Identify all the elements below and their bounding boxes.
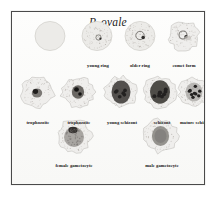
- cell-young-schizont: [100, 71, 142, 113]
- cell-trophozoite-2: [57, 71, 99, 113]
- caption-female-gametocyte: female gametocyte: [55, 163, 92, 168]
- caption-trophozoite: trophozoite: [27, 120, 50, 125]
- cell-trophozoite-1: [17, 71, 59, 113]
- cell-young-ring: [77, 16, 117, 56]
- figure-plate: P. ovale young ringolder ringcomet formt…: [11, 11, 205, 185]
- cell-comet-form: [164, 16, 204, 56]
- caption-mature-schizont: mature schizont: [180, 120, 205, 125]
- caption-trophozoite: trophozoite: [68, 120, 91, 125]
- cell-mature-schizont: [174, 72, 205, 112]
- caption-young-ring: young ring: [87, 63, 109, 68]
- caption-older-ring: older ring: [130, 63, 150, 68]
- caption-male-gametocyte: male gametocyte: [145, 163, 179, 168]
- caption-comet-form: comet form: [172, 63, 195, 68]
- cell-older-ring: [120, 16, 160, 56]
- caption-schizont: schizont: [154, 120, 170, 125]
- cell-normal-erythrocyte: [30, 16, 70, 56]
- caption-young-schizont: young schizont: [107, 120, 137, 125]
